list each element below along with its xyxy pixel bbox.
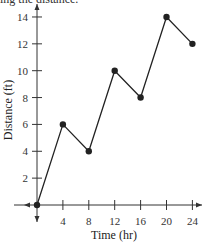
line-chart: 48121620242468101214 Time (hr) Distance … — [0, 0, 208, 243]
y-tick-label: 8 — [23, 92, 29, 104]
x-axis-arrow-left-icon — [24, 203, 30, 208]
y-tick-label: 10 — [17, 65, 29, 77]
x-tick-label: 20 — [161, 215, 173, 227]
series-line — [37, 17, 192, 205]
y-axis-arrow-up-icon — [35, 4, 40, 10]
data-point-marker — [163, 14, 169, 20]
data-point-marker — [60, 121, 66, 127]
x-axis-arrow-right-icon — [196, 203, 202, 208]
x-tick-label: 16 — [135, 215, 147, 227]
x-tick-label: 24 — [187, 215, 199, 227]
data-point-marker — [34, 202, 40, 208]
data-point-marker — [112, 68, 118, 74]
x-axis-title: Time (hr) — [91, 228, 137, 242]
y-tick-label: 2 — [23, 172, 29, 184]
y-axis-arrow-down-icon — [35, 216, 40, 222]
data-point-marker — [189, 41, 195, 47]
y-tick-label: 14 — [17, 11, 29, 23]
data-line — [34, 14, 196, 208]
y-tick-label: 12 — [17, 38, 28, 50]
x-tick-label: 12 — [109, 215, 120, 227]
x-tick-label: 8 — [86, 215, 92, 227]
y-tick-label: 4 — [23, 145, 29, 157]
y-tick-label: 6 — [23, 118, 29, 130]
ticks: 48121620242468101214 — [17, 11, 198, 227]
data-point-marker — [137, 94, 143, 100]
x-tick-label: 4 — [60, 215, 66, 227]
y-axis-title: Distance (ft) — [1, 80, 15, 140]
data-point-marker — [86, 148, 92, 154]
